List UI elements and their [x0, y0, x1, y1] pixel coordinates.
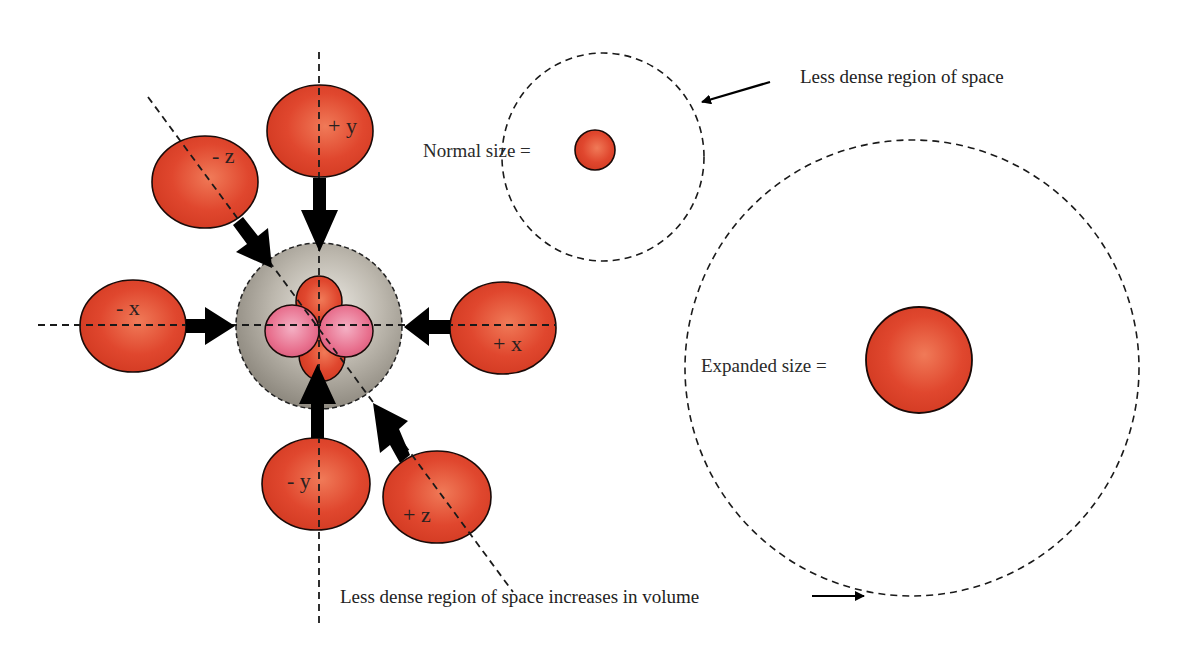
less-dense-region-label: Less dense region of space: [800, 66, 1004, 87]
ball-label: - z: [212, 143, 235, 168]
arrow-down-icon: [301, 178, 338, 252]
ball-minus-y: - y: [262, 438, 370, 530]
inner-lobe-left: [265, 305, 319, 357]
arrow-right-icon: [186, 307, 235, 345]
compression-expansion-diagram: - x + x + y - y - z + z: [0, 0, 1177, 653]
expanded-size-ball: [866, 307, 972, 413]
normal-size-label: Normal size =: [423, 140, 531, 161]
ball-plus-y: + y: [267, 85, 373, 177]
compression-group: - x + x + y - y - z + z: [38, 52, 556, 626]
volume-increase-label: Less dense region of space increases in …: [340, 586, 699, 607]
normal-size-ball: [575, 130, 615, 170]
ball-label: + z: [403, 502, 431, 527]
expanded-size-label: Expanded size =: [701, 355, 827, 376]
arrow-left-icon: [404, 307, 450, 346]
ball-label: + x: [493, 331, 522, 356]
normal-size-group: Normal size = Less dense region of space: [423, 53, 1004, 261]
ball-label: - y: [287, 468, 311, 493]
inner-lobe-right: [319, 305, 373, 357]
arrow-down-right-icon: [233, 217, 272, 268]
ball-label: - x: [116, 295, 140, 320]
ball-minus-z: - z: [152, 136, 258, 228]
expanded-size-group: Expanded size =: [685, 140, 1139, 596]
annotation-arrow-icon: [702, 82, 770, 102]
arrow-up-left-icon: [373, 403, 410, 463]
ball-label: + y: [328, 113, 357, 138]
ball-plus-x: + x: [450, 282, 556, 374]
bottom-annotation: Less dense region of space increases in …: [340, 586, 864, 607]
ball-minus-x: - x: [80, 280, 186, 372]
ball-plus-z: + z: [383, 451, 491, 543]
